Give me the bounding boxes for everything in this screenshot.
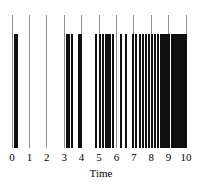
event-marker (185, 34, 187, 148)
x-tick-label: 8 (148, 150, 154, 164)
x-tick-label: 7 (131, 150, 137, 164)
x-tick-label: 5 (96, 150, 102, 164)
x-tick-label: 2 (44, 150, 50, 164)
event-marker (80, 34, 82, 148)
event-marker (99, 34, 101, 148)
event-marker (120, 34, 122, 148)
event-marker (157, 34, 159, 148)
x-axis-title: Time (0, 167, 202, 179)
event-marker (139, 34, 141, 148)
x-tick-label: 9 (166, 150, 172, 164)
event-marker (154, 34, 156, 148)
axis-tick-rule (64, 15, 65, 148)
axis-tick-rule (46, 15, 47, 148)
x-tick-label: 3 (61, 150, 67, 164)
chart-figure: 012345678910 Time (0, 0, 202, 185)
event-marker (148, 34, 150, 148)
event-marker (145, 34, 147, 148)
x-tick-label: 4 (79, 150, 85, 164)
event-marker (16, 34, 18, 148)
x-axis-tick-labels: 012345678910 (0, 150, 202, 168)
axis-tick-rule (29, 15, 30, 148)
event-marker (109, 34, 111, 148)
event-marker (125, 34, 127, 148)
x-tick-label: 0 (9, 150, 15, 164)
x-tick-label: 6 (114, 150, 120, 164)
event-marker (95, 34, 97, 148)
event-marker (71, 34, 73, 148)
event-marker (135, 34, 137, 148)
event-marker (102, 34, 104, 148)
event-marker (142, 34, 144, 148)
axis-tick-rule (116, 15, 117, 148)
x-tick-label: 10 (181, 150, 192, 164)
x-tick-label: 1 (27, 150, 33, 164)
axis-tick-rule (12, 15, 13, 148)
plot-area (0, 0, 202, 150)
event-marker (112, 34, 114, 148)
